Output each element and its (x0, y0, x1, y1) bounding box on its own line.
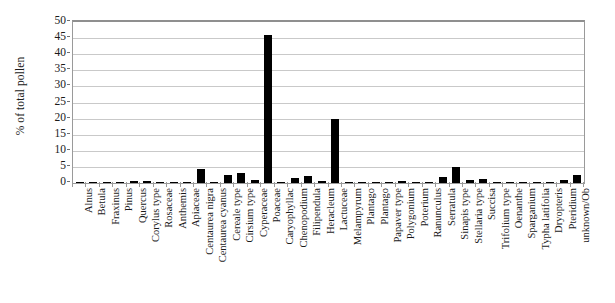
bar-slot (221, 22, 234, 183)
x-axis-tick-mark (381, 182, 382, 187)
x-axis-label-slot: Melampyrum (341, 188, 354, 300)
x-axis-tick-mark (112, 182, 113, 187)
y-axis-tick-label: 45 (55, 30, 67, 42)
y-axis-tick-mark (67, 52, 70, 53)
x-axis-tick-mark (462, 182, 463, 187)
y-axis-title: % of total pollen (14, 0, 28, 196)
y-axis-tick-mark (67, 20, 70, 21)
bar-slot (571, 22, 584, 183)
bar (264, 35, 272, 183)
x-axis-tick-mark (166, 182, 167, 187)
y-axis-tick-label: 20 (55, 111, 67, 123)
y-axis-tick-label: 25 (55, 95, 67, 107)
x-axis-tick-mark (314, 182, 315, 187)
x-axis-tick-mark (556, 182, 557, 187)
x-axis-label-slot: Typha latifolia (529, 188, 542, 300)
bar-slot (503, 22, 516, 183)
x-axis-label-slot: unknown/Ob (570, 188, 583, 300)
y-axis-tick-mark (67, 165, 70, 166)
x-axis-label-slot: Caryophyllac (274, 188, 287, 300)
x-axis-tick-mark (449, 182, 450, 187)
bar-slot (544, 22, 557, 183)
y-axis-tick-mark (67, 84, 70, 85)
x-axis-tick-mark (260, 182, 261, 187)
bar-slot (302, 22, 315, 183)
x-axis-label-slot: Sparganium (516, 188, 529, 300)
x-axis-tick-mark (220, 182, 221, 187)
y-axis-tick-mark (67, 101, 70, 102)
bar-slot (275, 22, 288, 183)
bar (452, 167, 460, 183)
x-axis-label-slot: Lactuceae (328, 188, 341, 300)
x-axis-tick-mark (395, 182, 396, 187)
x-axis-tick-mark (126, 182, 127, 187)
x-axis-tick-mark (99, 182, 100, 187)
x-axis-tick-mark (193, 182, 194, 187)
bar-slot (436, 22, 449, 183)
y-axis-tick-label: 35 (55, 62, 67, 74)
x-axis-label-slot: Plantago (368, 188, 381, 300)
x-axis-label-slot: Plantago (354, 188, 367, 300)
bar-slot (490, 22, 503, 183)
x-axis-tick-mark (354, 182, 355, 187)
y-axis-tick-label: 0 (60, 175, 66, 187)
bar-series (73, 22, 584, 183)
y-axis-tick-label: 30 (55, 78, 67, 90)
x-axis-tick-mark (475, 182, 476, 187)
y-axis-tick-label: 10 (55, 143, 67, 155)
x-axis-label-slot: Apiaceae (180, 188, 193, 300)
bar-slot (181, 22, 194, 183)
bar-slot (517, 22, 530, 183)
bar (197, 169, 205, 183)
x-axis-label-slot: Filipendula (301, 188, 314, 300)
y-axis-tick-mark (67, 181, 70, 182)
x-axis-tick-mark (287, 182, 288, 187)
y-axis-tick-label: 40 (55, 46, 67, 58)
bar-slot (463, 22, 476, 183)
x-axis-tick-mark (583, 182, 584, 187)
x-axis-tick-mark (502, 182, 503, 187)
bar-slot (194, 22, 207, 183)
x-axis-tick-mark (206, 182, 207, 187)
x-axis-tick-mark (368, 182, 369, 187)
bar-slot (450, 22, 463, 183)
y-axis-tick-mark (67, 36, 70, 37)
bar-slot (127, 22, 140, 183)
x-axis-label-slot: Dryopteris (543, 188, 556, 300)
x-axis-label-slot: Sinapis type (449, 188, 462, 300)
bar-slot (207, 22, 220, 183)
x-axis-tick-mark (408, 182, 409, 187)
x-axis-label-slot: Fraxinus (99, 188, 112, 300)
bar-slot (476, 22, 489, 183)
x-axis-label-slot: Quercus (126, 188, 139, 300)
y-axis-tick-label: 5 (60, 159, 66, 171)
bar-slot (329, 22, 342, 183)
bar-slot (355, 22, 368, 183)
x-axis-label-slot: Papaver type (381, 188, 394, 300)
x-axis-label-slot: Corylus type (139, 188, 152, 300)
bar (331, 119, 339, 183)
x-axis-label-slot: Oenanthe (502, 188, 515, 300)
x-axis-tick-mark (570, 182, 571, 187)
x-axis-tick-label: unknown/Ob (580, 188, 591, 243)
x-axis-tick-mark (139, 182, 140, 187)
y-axis-tick-mark (67, 68, 70, 69)
y-axis-tick-mark (67, 149, 70, 150)
bar-slot (396, 22, 409, 183)
x-axis-label-slot: Chenopodium (287, 188, 300, 300)
x-axis-label-slot: Centaurea nigra (193, 188, 206, 300)
x-axis-label-slot: Ranunculus (422, 188, 435, 300)
x-axis-label-slot: Betula (85, 188, 98, 300)
x-axis-tick-mark (435, 182, 436, 187)
bar-slot (557, 22, 570, 183)
bar-slot (248, 22, 261, 183)
x-axis-label-slot: Centaurea cyanus (206, 188, 219, 300)
y-axis-tick-mark (67, 117, 70, 118)
x-axis-tick-mark (153, 182, 154, 187)
bar-slot (167, 22, 180, 183)
x-axis-label-slot: Poterium (408, 188, 421, 300)
bar-slot (154, 22, 167, 183)
x-axis-tick-mark (274, 182, 275, 187)
y-axis-tick-labels: 50454035302520151050 (40, 13, 70, 189)
y-axis-tick-mark (67, 133, 70, 134)
